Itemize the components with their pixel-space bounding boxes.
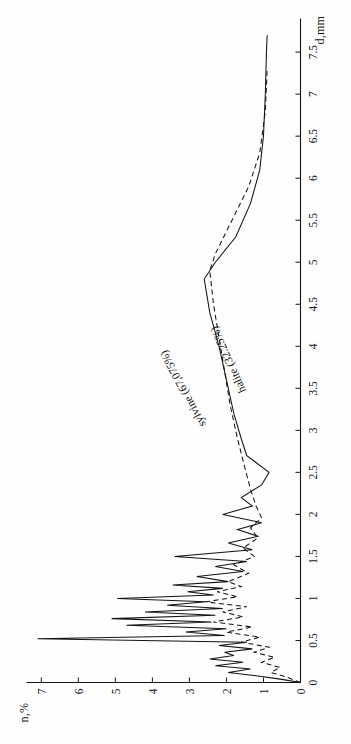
chart-figure: 00.511.522.533.544.555.566.577.5 0123456… [0, 0, 351, 744]
series-line-halite [206, 68, 300, 682]
x-tick-label: 2.5 [306, 465, 318, 479]
x-tick-label: 1 [306, 595, 318, 601]
x-tick-label: 7 [306, 91, 318, 97]
y-tick-label: 3 [183, 688, 195, 708]
x-tick-label: 3.5 [306, 381, 318, 395]
y-tick-label: 4 [146, 688, 158, 708]
y-tick-label: 2 [220, 688, 232, 708]
y-tick-marks [41, 677, 300, 682]
y-tick-label: 6 [72, 688, 84, 708]
x-tick-label: 6 [306, 175, 318, 181]
x-tick-label: 4.5 [306, 297, 318, 311]
x-tick-label: 0 [306, 679, 318, 685]
figure-page: 00.511.522.533.544.555.566.577.5 0123456… [0, 0, 351, 744]
y-tick-label: 1 [257, 688, 269, 708]
x-tick-label: 1.5 [306, 549, 318, 563]
x-tick-label: 5 [306, 259, 318, 265]
y-tick-label: 0 [294, 688, 306, 708]
y-tick-label: 7 [35, 688, 47, 708]
x-tick-label: 3 [306, 427, 318, 433]
x-axis-title: d,mm [312, 16, 327, 44]
y-tick-label: 5 [109, 688, 121, 708]
x-tick-label: 2 [306, 511, 318, 517]
x-tick-label: 6.5 [306, 128, 318, 142]
rotated-figure-wrapper: 00.511.522.533.544.555.566.577.5 0123456… [0, 0, 351, 744]
x-tick-label: 4 [306, 343, 318, 349]
x-tick-label: 7.5 [306, 44, 318, 58]
x-tick-label: 0.5 [306, 633, 318, 647]
x-tick-label: 5.5 [306, 213, 318, 227]
x-tick-marks [295, 52, 300, 682]
y-axis-title: n,% [16, 702, 31, 722]
